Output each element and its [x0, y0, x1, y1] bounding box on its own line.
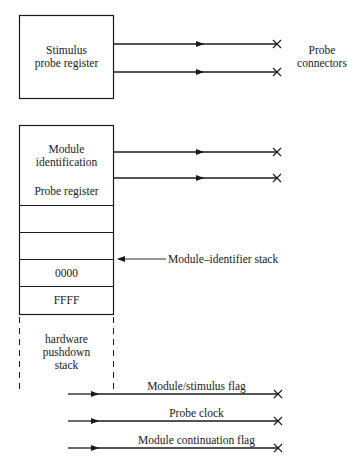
stack-pointer-label: Module–identifier stack: [168, 253, 278, 266]
signal-label-probe-clock: Probe clock: [68, 407, 325, 420]
hardware-stack-label: hardware pushdown stack: [19, 333, 114, 372]
module-identification-label: Module identification: [19, 143, 114, 169]
probe-register-label: Probe register: [19, 185, 114, 198]
stack-cell-0000: 0000: [19, 267, 114, 280]
connector-x-icon: [273, 148, 281, 182]
signal-label-module-continuation-flag: Module continuation flag: [68, 434, 325, 447]
diagram-canvas: [0, 0, 358, 472]
signal-label-module-stimulus-flag: Module/stimulus flag: [68, 380, 325, 393]
connector-x-icon: [273, 40, 281, 76]
stimulus-register-label: Stimulus probe register: [19, 44, 114, 70]
probe-connectors-label: Probe connectors: [286, 44, 358, 70]
stack-cell-ffff: FFFF: [19, 294, 114, 307]
